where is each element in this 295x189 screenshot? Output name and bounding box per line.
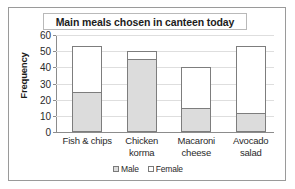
x-axis-label-line: Avocado <box>224 135 279 147</box>
y-tick-label-0: 0 <box>45 127 51 138</box>
bar-group[interactable] <box>127 51 157 132</box>
legend-swatch-icon <box>148 166 154 172</box>
bar-segment-female[interactable] <box>72 46 102 91</box>
bar-segment-female[interactable] <box>127 51 157 59</box>
y-tick-mark-50 <box>53 51 56 52</box>
y-tick-label-40: 40 <box>40 62 51 73</box>
x-axis-category-labels: Fish & chipsChickenkormaMacaronicheeseAv… <box>56 135 274 165</box>
bar-segment-female[interactable] <box>181 67 211 107</box>
y-tick-mark-30 <box>53 84 56 85</box>
y-tick-mark-40 <box>53 67 56 68</box>
x-axis-label: Avocadosalad <box>224 135 279 159</box>
x-axis-label-line: Macaroni <box>169 135 224 147</box>
bar-segment-male[interactable] <box>127 59 157 132</box>
y-tick-label-10: 10 <box>40 110 51 121</box>
y-tick-label-60: 60 <box>40 30 51 41</box>
y-tick-mark-0 <box>53 132 56 133</box>
x-axis-label-line: cheese <box>169 147 224 159</box>
y-tick-mark-10 <box>53 116 56 117</box>
y-tick-mark-60 <box>53 35 56 36</box>
x-axis-label-line: korma <box>115 147 170 159</box>
y-tick-label-20: 20 <box>40 94 51 105</box>
x-axis-label: Macaronicheese <box>169 135 224 159</box>
bar-group[interactable] <box>72 46 102 132</box>
chart-panel: Main meals chosen in canteen today Frequ… <box>8 7 286 181</box>
chart-title-box: Main meals chosen in canteen today <box>43 13 247 30</box>
legend-label: Female <box>156 164 183 174</box>
gridline-60 <box>56 35 274 36</box>
x-axis-label-line: salad <box>224 147 279 159</box>
x-axis-label: Chickenkorma <box>115 135 170 159</box>
legend-swatch-icon <box>113 166 119 172</box>
bar-segment-male[interactable] <box>236 113 266 132</box>
bar-segment-female[interactable] <box>236 46 266 112</box>
bar-group[interactable] <box>236 46 266 132</box>
y-tick-mark-20 <box>53 100 56 101</box>
page-title: Main meals chosen in canteen today <box>56 16 235 28</box>
bar-segment-male[interactable] <box>72 92 102 132</box>
legend-item-female[interactable]: Female <box>148 164 183 174</box>
chart-legend: MaleFemale <box>9 164 287 174</box>
x-axis-label-line: Chicken <box>115 135 170 147</box>
x-axis-label: Fish & chips <box>60 135 115 147</box>
legend-label: Male <box>121 164 139 174</box>
plot-area: 0102030405060 <box>56 35 274 132</box>
legend-item-male[interactable]: Male <box>113 164 139 174</box>
y-tick-label-30: 30 <box>40 78 51 89</box>
y-tick-label-50: 50 <box>40 46 51 57</box>
x-axis-label-line: Fish & chips <box>60 135 115 147</box>
bar-group[interactable] <box>181 67 211 132</box>
y-axis-title: Frequency <box>18 40 29 112</box>
gridline-0 <box>56 132 274 133</box>
bar-segment-male[interactable] <box>181 108 211 132</box>
